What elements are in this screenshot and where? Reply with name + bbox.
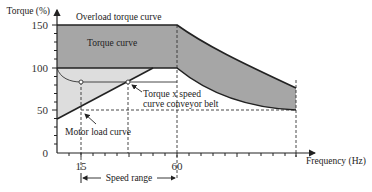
- y-axis-label: Torque (%): [7, 6, 50, 17]
- speed-range-label: Speed range: [106, 173, 153, 183]
- motor-load-pointer: [85, 114, 96, 124]
- torque-speed-pointer: [132, 85, 142, 92]
- ytick-50: 50: [37, 104, 49, 116]
- x-axis-label: Frequency (Hz): [306, 156, 366, 167]
- overload-torque-label: Overload torque curve: [76, 12, 161, 22]
- torque-curve-label: Torque curve: [87, 38, 137, 48]
- marker-15hz: [79, 80, 83, 84]
- xtick-15: 15: [76, 160, 88, 172]
- ytick-0: 0: [43, 147, 49, 159]
- ytick-100: 100: [32, 62, 49, 74]
- torque-speed-label-2: curve conveyor belt: [143, 99, 219, 109]
- y-ticks: [52, 25, 57, 144]
- torque-frequency-chart: 150 100 50 0 15 60 Torque (%) Frequency …: [0, 0, 372, 192]
- xtick-60: 60: [172, 160, 184, 172]
- torque-speed-label-1: Torque x speed: [143, 89, 201, 99]
- ytick-150: 150: [32, 19, 49, 31]
- motor-load-label: Motor load curve: [65, 127, 131, 137]
- marker-intersection: [126, 80, 130, 84]
